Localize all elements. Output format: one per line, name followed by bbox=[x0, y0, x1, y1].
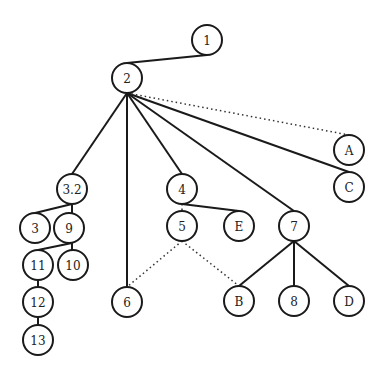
node-label: 11 bbox=[30, 259, 45, 273]
node-B: B bbox=[224, 286, 254, 316]
edge-5-to-B bbox=[182, 241, 239, 286]
node-label: D bbox=[344, 295, 354, 309]
node-13: 13 bbox=[23, 325, 53, 355]
node-12: 12 bbox=[23, 287, 53, 317]
node-label: C bbox=[344, 181, 353, 195]
node-label: 5 bbox=[178, 220, 186, 234]
node-label: 10 bbox=[65, 259, 80, 273]
edge-2-to-3.2 bbox=[72, 93, 127, 174]
node-label: 13 bbox=[30, 334, 45, 348]
node-3: 3 bbox=[20, 213, 50, 243]
node-6: 6 bbox=[112, 287, 142, 317]
node-label: 4 bbox=[178, 183, 186, 197]
edge-2-to-C bbox=[127, 93, 349, 172]
node-label: E bbox=[235, 220, 244, 234]
edge-4-to-E bbox=[182, 204, 239, 211]
node-1: 1 bbox=[192, 25, 222, 55]
tree-diagram-svg: 12AC3.24395E711106B8D1213 bbox=[0, 0, 385, 375]
edge-7-to-D bbox=[294, 241, 349, 286]
node-E: E bbox=[224, 211, 254, 241]
node-3.2: 3.2 bbox=[57, 174, 87, 204]
node-8: 8 bbox=[279, 286, 309, 316]
node-label: B bbox=[235, 295, 244, 309]
edge-3.2-to-3 bbox=[35, 204, 72, 213]
tree-diagram: 12AC3.24395E711106B8D1213 bbox=[0, 0, 385, 375]
node-label: 8 bbox=[290, 295, 298, 309]
node-7: 7 bbox=[279, 211, 309, 241]
node-C: C bbox=[334, 172, 364, 202]
node-label: 1 bbox=[203, 34, 211, 48]
node-2: 2 bbox=[112, 63, 142, 93]
node-11: 11 bbox=[23, 250, 53, 280]
node-label: 9 bbox=[65, 222, 73, 236]
edge-7-to-B bbox=[239, 241, 294, 286]
node-9: 9 bbox=[54, 213, 84, 243]
node-A: A bbox=[334, 135, 364, 165]
edge-1-to-2 bbox=[127, 55, 207, 63]
node-10: 10 bbox=[58, 250, 88, 280]
edge-2-to-4 bbox=[127, 93, 182, 174]
edge-9-to-11 bbox=[38, 243, 72, 250]
node-label: 3.2 bbox=[62, 183, 81, 197]
node-label: 6 bbox=[123, 296, 131, 310]
edge-2-to-7 bbox=[127, 93, 294, 211]
node-label: 2 bbox=[123, 72, 131, 86]
node-label: 12 bbox=[30, 296, 45, 310]
node-label: A bbox=[344, 144, 354, 158]
node-label: 7 bbox=[290, 220, 298, 234]
edge-5-to-6 bbox=[127, 241, 182, 287]
node-label: 3 bbox=[31, 222, 39, 236]
node-5: 5 bbox=[167, 211, 197, 241]
edge-2-to-A bbox=[127, 93, 349, 135]
node-D: D bbox=[334, 286, 364, 316]
node-4: 4 bbox=[167, 174, 197, 204]
nodes-layer: 12AC3.24395E711106B8D1213 bbox=[20, 25, 364, 355]
